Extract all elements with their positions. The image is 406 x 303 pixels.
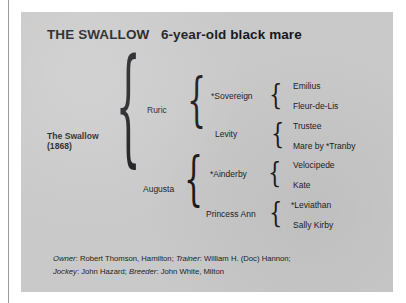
brace-dam: { — [184, 150, 203, 209]
pedigree-sire: Ruric — [147, 106, 167, 116]
pedigree-subject-name: The Swallow — [47, 131, 99, 141]
brace-g3-1: { — [269, 82, 282, 109]
pedigree-g4-1: Emilius — [293, 82, 320, 92]
page-title: THE SWALLOW 6-year-old black mare — [47, 27, 302, 42]
breeder-value: : John White, Milton — [156, 267, 224, 276]
pedigree-g3-2: Levity — [215, 130, 237, 140]
jockey-label: Jockey — [53, 267, 77, 276]
pedigree-g4-3: Trustee — [293, 122, 322, 132]
brace-subject: { — [115, 41, 140, 168]
credits-block: Owner: Robert Thomson, Hamilton; Trainer… — [53, 252, 383, 278]
owner-label: Owner — [53, 254, 76, 263]
pedigree-subject: The Swallow (1868) — [47, 132, 99, 152]
pedigree-g4-5: Velocipede — [293, 161, 335, 171]
pedigree-tree: The Swallow (1868) { Ruric Augusta { { *… — [21, 60, 393, 230]
page-gutter-rule — [8, 0, 9, 303]
brace-sire: { — [187, 71, 206, 130]
pedigree-g3-3: *Ainderby — [210, 170, 247, 180]
credits-line-1: Owner: Robert Thomson, Hamilton; Trainer… — [53, 252, 383, 265]
trainer-label: Trainer — [176, 254, 200, 263]
trainer-value: : William H. (Doc) Hannon; — [200, 254, 291, 263]
pedigree-g3-1: *Sovereign — [211, 92, 253, 102]
pedigree-g4-8: Sally Kirby — [293, 221, 333, 231]
owner-value: : Robert Thomson, Hamilton; — [76, 254, 176, 263]
pedigree-g3-4: Princess Ann — [206, 210, 256, 220]
pedigree-g4-6: Kate — [293, 181, 311, 191]
brace-g3-2: { — [271, 121, 284, 148]
pedigree-g4-4: Mare by *Tranby — [293, 142, 356, 152]
breeder-label: Breeder — [129, 267, 156, 276]
brace-g3-3: { — [268, 160, 281, 187]
brace-g3-4: { — [269, 200, 282, 227]
jockey-value: : John Hazard; — [77, 267, 129, 276]
credits-line-2: Jockey: John Hazard; Breeder: John White… — [53, 265, 383, 278]
pedigree-g4-7: *Leviathan — [291, 201, 331, 211]
pedigree-subject-year: (1868) — [47, 141, 72, 151]
pedigree-panel: THE SWALLOW 6-year-old black mare The Sw… — [21, 12, 393, 292]
pedigree-dam: Augusta — [143, 185, 174, 195]
pedigree-g4-2: Fleur-de-Lis — [293, 102, 338, 112]
